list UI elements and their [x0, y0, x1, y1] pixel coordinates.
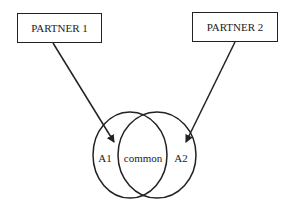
partner-2-label: PARTNER 2 — [207, 21, 264, 33]
partner-1-box: PARTNER 1 — [17, 13, 102, 43]
set-common-label: common — [124, 152, 163, 164]
arrow-partner2-to-a2 — [186, 42, 235, 142]
set-a2-label: A2 — [174, 152, 187, 164]
set-a1-label: A1 — [98, 152, 111, 164]
partner-1-label: PARTNER 1 — [31, 22, 88, 34]
partner-2-box: PARTNER 2 — [192, 12, 278, 42]
arrow-partner1-to-a1 — [53, 43, 114, 142]
